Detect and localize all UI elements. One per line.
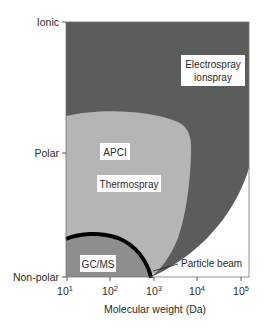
x-axis-title: Molecular weight (Da) [104,303,206,315]
y-label-ionic: Ionic [37,16,59,28]
x-tick-label-3: 103 [146,284,162,297]
particle-beam-label: Particle beam [181,258,242,269]
x-tick-label-1: 101 [57,284,73,297]
gcms-label: GC/MS [82,259,115,270]
x-tick-label-5: 105 [233,284,249,297]
x-tick-label-4: 104 [189,284,205,297]
y-label-nonpolar: Non-polar [13,271,60,283]
x-tick-label-2: 102 [102,284,118,297]
y-label-polar: Polar [34,147,59,159]
electrospray-label-line1: Electrospray [185,59,241,70]
apci-label: APCI [103,147,126,158]
electrospray-label-line2: ionspray [194,72,232,83]
ionization-technique-chart: Ionic Polar Non-polar 101 102 103 104 10… [0,0,264,330]
thermospray-label: Thermospray [100,179,159,190]
